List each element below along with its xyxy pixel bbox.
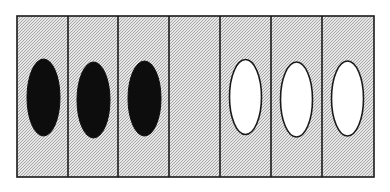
figure (0, 0, 390, 192)
open-ellipse-icon (281, 62, 313, 137)
filled-ellipse-icon (27, 59, 60, 136)
open-ellipse-icon (332, 61, 364, 136)
panel-background (17, 16, 374, 177)
filled-ellipse-icon (128, 61, 161, 136)
filled-ellipse-icon (77, 62, 110, 138)
cell-row-diagram (0, 0, 390, 192)
open-ellipse-icon (230, 60, 262, 135)
